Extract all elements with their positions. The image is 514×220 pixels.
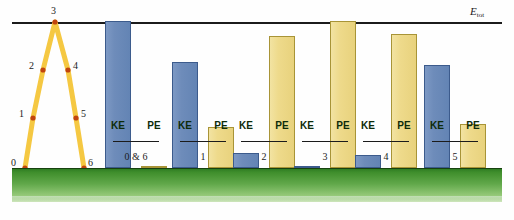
kinetic-energy-bar bbox=[105, 21, 131, 168]
ke-axis-label: KE bbox=[424, 120, 450, 131]
group-brace bbox=[180, 141, 226, 142]
group-brace bbox=[241, 141, 287, 142]
trajectory-point-label-6: 6 bbox=[88, 157, 93, 168]
pe-axis-label: PE bbox=[330, 120, 356, 131]
group-category-label: 0 & 6 bbox=[105, 151, 167, 162]
ke-axis-label: KE bbox=[294, 120, 320, 131]
bar-pair-labels: KEPE bbox=[233, 120, 295, 136]
group-category-label: 5 bbox=[424, 151, 486, 162]
group-category-label: 2 bbox=[233, 151, 295, 162]
pe-axis-label: PE bbox=[460, 120, 486, 131]
total-energy-subscript: tot bbox=[477, 11, 484, 19]
bar-group: KEPE4 bbox=[355, 21, 417, 168]
ke-axis-label: KE bbox=[355, 120, 381, 131]
group-category-label: 4 bbox=[355, 151, 417, 162]
trajectory-point-marker bbox=[73, 115, 78, 120]
trajectory-point-label-1: 1 bbox=[19, 108, 24, 119]
group-category-label: 1 bbox=[172, 151, 234, 162]
bar-pair-labels: KEPE bbox=[105, 120, 167, 136]
kinetic-energy-bar bbox=[294, 166, 320, 168]
group-brace bbox=[302, 141, 348, 142]
group-brace bbox=[432, 141, 478, 142]
pe-axis-label: PE bbox=[208, 120, 234, 131]
trajectory-point-label-4: 4 bbox=[73, 60, 78, 71]
potential-energy-bar bbox=[141, 166, 167, 168]
trajectory-point-marker bbox=[65, 67, 70, 72]
trajectory-point-marker bbox=[40, 67, 45, 72]
trajectory-point-marker bbox=[30, 115, 35, 120]
energy-bar-chart: Etot 0123456 KEPE0 & 6KEPE1KEPE2KEPE3KEP… bbox=[0, 0, 514, 220]
ke-axis-label: KE bbox=[233, 120, 259, 131]
bar-group: KEPE3 bbox=[294, 21, 356, 168]
potential-energy-bar bbox=[330, 21, 356, 168]
group-brace bbox=[113, 141, 159, 142]
potential-energy-bar bbox=[391, 34, 417, 168]
trajectory-point-label-3: 3 bbox=[51, 5, 56, 16]
pe-axis-label: PE bbox=[269, 120, 295, 131]
bar-group: KEPE2 bbox=[233, 21, 295, 168]
bar-group: KEPE5 bbox=[424, 21, 486, 168]
bar-pair-labels: KEPE bbox=[424, 120, 486, 136]
total-energy-label: Etot bbox=[470, 5, 484, 17]
ke-axis-label: KE bbox=[105, 120, 131, 131]
trajectory-point-label-0: 0 bbox=[11, 157, 16, 168]
pe-axis-label: PE bbox=[391, 120, 417, 131]
total-energy-symbol: E bbox=[470, 5, 477, 17]
bar-group: KEPE0 & 6 bbox=[105, 21, 167, 168]
trajectory-point-label-5: 5 bbox=[81, 108, 86, 119]
bar-pair-labels: KEPE bbox=[294, 120, 356, 136]
ke-axis-label: KE bbox=[172, 120, 198, 131]
group-brace bbox=[363, 141, 409, 142]
ground-shadow bbox=[12, 196, 502, 202]
trajectory-point-label-2: 2 bbox=[29, 60, 34, 71]
group-category-label: 3 bbox=[294, 151, 356, 162]
bar-pair-labels: KEPE bbox=[355, 120, 417, 136]
potential-energy-bar bbox=[269, 36, 295, 168]
bar-group: KEPE1 bbox=[172, 21, 234, 168]
pe-axis-label: PE bbox=[141, 120, 167, 131]
bar-pair-labels: KEPE bbox=[172, 120, 234, 136]
